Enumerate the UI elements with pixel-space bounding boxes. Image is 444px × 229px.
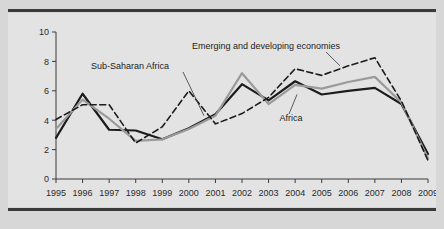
x-tick-label: 2002 <box>232 188 252 198</box>
x-tick-label: 2000 <box>179 188 199 198</box>
series-annotation: Sub-Saharan Africa <box>91 61 169 71</box>
x-tick-label: 2006 <box>338 188 358 198</box>
x-tick-label: 1997 <box>99 188 119 198</box>
y-tick-label: 4 <box>44 116 49 126</box>
x-tick-label: 1998 <box>126 188 146 198</box>
y-tick-label: 6 <box>44 86 49 96</box>
plot-area: 0246810 19951996199719981999200020012002… <box>8 13 436 207</box>
series-annotation: Africa <box>279 113 302 123</box>
x-tick-label: 1995 <box>46 188 66 198</box>
x-tick-label: 2008 <box>391 188 411 198</box>
x-tick-label: 2005 <box>312 188 332 198</box>
chart-figure: AFRICAN ECONOMIC 0246810 199519961997199… <box>0 0 444 229</box>
y-tick-label: 10 <box>39 27 49 37</box>
x-tick-label: 2007 <box>365 188 385 198</box>
x-tick-label: 2003 <box>259 188 279 198</box>
x-tick-labels: 1995199619971998199920002001200220032004… <box>46 188 436 198</box>
x-tick-label: 2001 <box>205 188 225 198</box>
x-tick-label: 2009 <box>418 188 436 198</box>
x-tick-label: 1999 <box>152 188 172 198</box>
line-chart: 0246810 19951996199719981999200020012002… <box>8 13 436 207</box>
x-tick-label: 1996 <box>73 188 93 198</box>
bottom-rule <box>8 208 436 211</box>
y-tick-label: 2 <box>44 145 49 155</box>
top-rule <box>8 9 436 12</box>
y-tick-label: 0 <box>44 174 49 184</box>
x-tick-label: 2004 <box>285 188 305 198</box>
series-annotation: Emerging and developing economies <box>192 41 341 51</box>
y-tick-label: 8 <box>44 57 49 67</box>
